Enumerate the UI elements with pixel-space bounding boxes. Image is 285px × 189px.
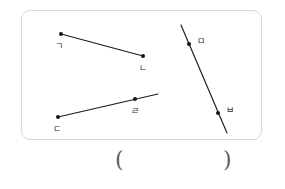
answer-blank[interactable] [127,151,221,171]
figure-card: ㄱㄴㄷㄹㅁㅂ [21,10,262,140]
segment-gieuk-nieun: ㄱㄴ [55,32,147,73]
point-marker [141,54,145,58]
point-label: ㅂ [226,105,234,115]
point-marker [56,115,60,119]
point-label: ㄹ [131,106,139,116]
point-marker [59,32,63,36]
answer-row: ( ) [21,143,262,187]
answer-close-paren: ) [223,149,232,171]
point-label: ㄷ [53,124,61,134]
line-mieum-bieup: ㅁㅂ [181,25,234,133]
point-marker [133,97,137,101]
segment-gieuk-nieun-stroke [61,34,143,56]
point-label: ㅁ [197,36,205,46]
ray-digeut-rieul: ㄷㄹ [53,94,158,134]
point-label: ㄱ [55,41,63,51]
geometry-figure: ㄱㄴㄷㄹㅁㅂ [22,11,263,141]
point-marker [187,42,191,46]
point-marker [216,111,220,115]
answer-open-paren: ( [115,149,124,171]
point-label: ㄴ [139,63,147,73]
ray-digeut-rieul-stroke [58,94,158,117]
